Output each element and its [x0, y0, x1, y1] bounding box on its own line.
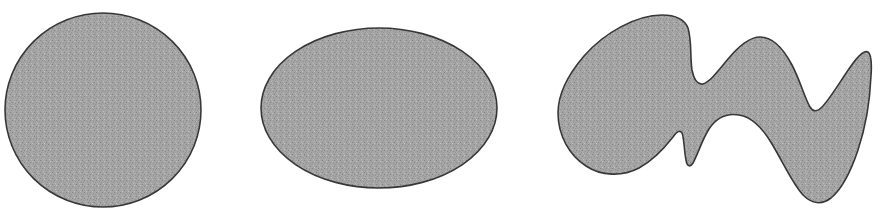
shapes-figure — [0, 0, 880, 223]
shape-group — [5, 13, 871, 207]
figure-container — [0, 0, 880, 223]
shape-ellipse — [261, 28, 497, 188]
shape-irregular-blob — [558, 15, 871, 203]
shape-circle — [5, 13, 201, 207]
